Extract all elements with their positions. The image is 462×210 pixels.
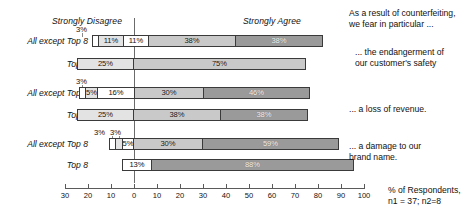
x-axis-tick-label: 20 [168, 191, 192, 200]
diverging-bar-chart: Strongly Disagree Strongly Agree All exc… [0, 0, 462, 210]
segment-neutral: 5% [123, 138, 134, 150]
segment-neutral: 13% [122, 159, 152, 171]
segment-agree: 30% [135, 87, 204, 99]
table-row: 25% 75% [77, 58, 306, 70]
x-axis-tick [203, 184, 204, 189]
table-row: 25% 38% 38% [77, 109, 308, 121]
chart-intro-text: As a result of counterfeiting, we fear i… [349, 8, 456, 30]
x-axis-tick-label: 50 [237, 191, 261, 200]
plot-area: Strongly Disagree Strongly Agree All exc… [0, 0, 462, 210]
row-label-4: All except Top 8 [2, 139, 88, 149]
x-axis-tick [249, 184, 250, 189]
segment-disagree: 11% [99, 35, 124, 47]
segment-disagree: 5% [86, 87, 98, 99]
row-label-1: Top 8 [2, 59, 88, 69]
x-axis-tick [295, 184, 296, 189]
segment-neutral: 11% [124, 35, 149, 47]
x-axis-tick-label: 80 [306, 191, 330, 200]
x-axis-tick [364, 184, 365, 189]
segment-agree: 38% [134, 109, 221, 121]
row-label-0: All except Top 8 [2, 36, 88, 46]
x-axis-tick [157, 184, 158, 189]
table-row: 3% 5% 16% 30% 46% [79, 87, 310, 99]
table-row: 13% 88% [122, 159, 354, 171]
segment-strongly-agree: 38% [236, 35, 323, 47]
tiny-callout-leader-r0a [82, 33, 83, 37]
x-axis-tick [65, 184, 66, 189]
segment-strongly-agree: 88% [152, 159, 354, 171]
strongly-disagree-label: Strongly Disagree [52, 16, 122, 26]
row-label-5: Top 8 [2, 160, 88, 170]
segment-disagree: 3% [116, 138, 123, 150]
segment-strongly-disagree: 3% [79, 87, 86, 99]
x-axis-tick-label: 10 [99, 191, 123, 200]
segment-strongly-agree: 38% [221, 109, 308, 121]
x-axis-tick-label: 70 [283, 191, 307, 200]
segment-strongly-disagree: 3% [109, 138, 116, 150]
x-axis-tick [180, 184, 181, 189]
table-row: 3% 11% 11% 38% 38% [92, 35, 323, 47]
question-label-1: ... the endangerment of our customer's s… [355, 47, 444, 69]
segment-disagree: 25% [77, 109, 134, 121]
segment-disagree: 25% [77, 58, 134, 70]
x-axis-tick [226, 184, 227, 189]
segment-strongly-agree: 46% [204, 87, 310, 99]
segment-strongly-disagree: 3% [92, 35, 99, 47]
x-axis-tick-label: 0 [122, 191, 146, 200]
tiny-callout-r4a: 3% [94, 128, 105, 137]
x-axis-tick-label: 90 [329, 191, 353, 200]
x-axis-caption: % of Respondents, n1 = 37; n2=8 [388, 185, 461, 207]
x-axis-tick [88, 184, 89, 189]
x-axis-tick-label: 60 [260, 191, 284, 200]
question-label-2: ... a loss of revenue. [349, 104, 426, 115]
segment-agree: 30% [134, 138, 203, 150]
segment-agree: 75% [134, 58, 306, 70]
x-axis-tick [318, 184, 319, 189]
x-axis-tick [272, 184, 273, 189]
x-axis-tick-label: 10 [145, 191, 169, 200]
segment-strongly-agree: 59% [203, 138, 339, 150]
x-axis-tick-label: 30 [53, 191, 77, 200]
table-row: 3% 3% 5% 30% 59% [109, 138, 339, 150]
x-axis-tick-label: 100 [352, 191, 376, 200]
x-axis-tick-label: 40 [214, 191, 238, 200]
strongly-agree-label: Strongly Agree [243, 16, 301, 26]
segment-agree: 38% [149, 35, 236, 47]
question-label-3: ... a damage to our brand name. [349, 141, 421, 163]
segment-neutral: 16% [98, 87, 135, 99]
row-label-3: Top 8 [2, 110, 88, 120]
x-axis-tick [134, 184, 135, 189]
x-axis-tick [341, 184, 342, 189]
x-axis-tick-label: 20 [76, 191, 100, 200]
x-axis-tick [111, 184, 112, 189]
x-axis-tick-label: 30 [191, 191, 215, 200]
row-label-2: All except Top 8 [2, 88, 88, 98]
